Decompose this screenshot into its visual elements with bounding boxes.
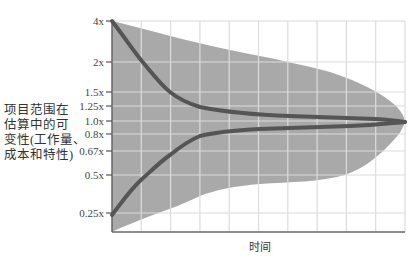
- y-axis-label-line: 估算中的可: [4, 118, 88, 133]
- y-axis-label-line: 变性(工作量、: [4, 133, 88, 148]
- y-axis-label-line: 项目范围在: [4, 103, 88, 118]
- y-tick-label: 0.5x: [85, 169, 105, 181]
- y-tick-label: 2x: [93, 56, 105, 68]
- y-ticks: [106, 21, 112, 213]
- y-axis-label-line: 成本和特性): [4, 148, 88, 163]
- y-tick-label: 4x: [93, 15, 105, 27]
- y-tick-label: 0.25x: [79, 207, 104, 219]
- x-axis-label: 时间: [249, 238, 271, 254]
- y-tick-label: 1.5x: [85, 86, 105, 98]
- y-axis-label: 项目范围在 估算中的可 变性(工作量、 成本和特性): [4, 103, 88, 163]
